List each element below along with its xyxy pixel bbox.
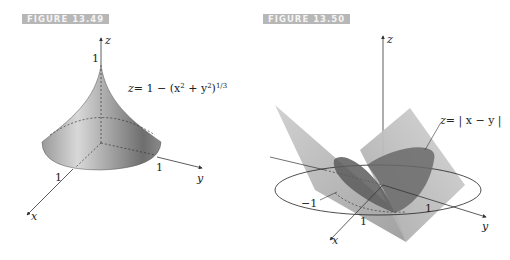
x-axis-label: x xyxy=(332,234,339,247)
cone-surface xyxy=(42,65,161,170)
x-tick-1: 1 xyxy=(55,171,62,184)
neg-tick: −1 xyxy=(301,197,317,210)
figures-canvas: z 1 1 1 x y z= 1 − (x2 + y2)1/3 z z= | x… xyxy=(0,0,510,260)
y-tick-1: 1 xyxy=(156,161,163,174)
x-axis xyxy=(27,169,73,215)
z-axis-label: z xyxy=(104,34,111,47)
y-axis-label: y xyxy=(481,220,489,233)
z-axis-label: z xyxy=(386,33,393,46)
x-tick-1: 1 xyxy=(360,215,367,228)
equation-13-50: z= | x − y | xyxy=(439,114,502,128)
y-axis xyxy=(157,157,202,168)
y-axis-label: y xyxy=(196,172,204,185)
z-tick-1: 1 xyxy=(92,52,99,65)
x-axis-label: x xyxy=(31,210,38,223)
figure-13-50-plot: z z= | x − y | −1 1 1 x y xyxy=(270,33,502,247)
y-tick-1: 1 xyxy=(425,202,432,215)
figure-13-49-plot: z 1 1 1 x y z= 1 − (x2 + y2)1/3 xyxy=(27,34,227,223)
equation-13-49: z= 1 − (x2 + y2)1/3 xyxy=(127,82,227,95)
